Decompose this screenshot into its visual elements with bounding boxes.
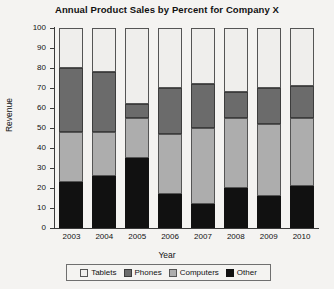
chart-title: Annual Product Sales by Percent for Comp…	[0, 4, 334, 15]
y-axis-tick-label: 60	[20, 103, 46, 112]
bar-2006[interactable]	[158, 28, 182, 228]
y-axis-tick-label: 30	[20, 163, 46, 172]
x-axis-tick-label: 2009	[253, 232, 285, 241]
bar-segment-tablets[interactable]	[59, 28, 83, 68]
bar-segment-tablets[interactable]	[92, 28, 116, 72]
bar-segment-other[interactable]	[158, 194, 182, 228]
bar-segment-other[interactable]	[224, 188, 248, 228]
chart-container: Annual Product Sales by Percent for Comp…	[0, 0, 334, 289]
bar-segment-tablets[interactable]	[125, 28, 149, 104]
y-axis-tick-label: 50	[20, 123, 46, 132]
legend-swatch-other-icon	[226, 269, 234, 277]
legend-swatch-tablets-icon	[80, 269, 88, 277]
bar-segment-phones[interactable]	[92, 72, 116, 132]
bar-2009[interactable]	[257, 28, 281, 228]
bar-segment-phones[interactable]	[257, 88, 281, 124]
bar-segment-computers[interactable]	[257, 124, 281, 196]
y-axis-tick-label: 10	[20, 203, 46, 212]
y-axis-tick-label: 0	[20, 223, 46, 232]
bar-segment-computers[interactable]	[158, 134, 182, 194]
legend-item-tablets[interactable]: Tablets	[80, 268, 116, 277]
bar-2005[interactable]	[125, 28, 149, 228]
x-axis-tick-label: 2006	[154, 232, 186, 241]
legend-item-other[interactable]: Other	[226, 268, 257, 277]
legend-item-computers[interactable]: Computers	[169, 268, 219, 277]
bar-segment-tablets[interactable]	[290, 28, 314, 86]
legend-swatch-computers-icon	[169, 269, 177, 277]
bar-segment-computers[interactable]	[191, 128, 215, 204]
bar-segment-other[interactable]	[59, 182, 83, 228]
legend-label: Phones	[135, 268, 162, 277]
y-axis-tick-label: 20	[20, 183, 46, 192]
bar-2008[interactable]	[224, 28, 248, 228]
y-axis-title: Revenue	[4, 80, 14, 150]
legend-swatch-phones-icon	[124, 269, 132, 277]
bar-segment-tablets[interactable]	[224, 28, 248, 92]
bar-segment-computers[interactable]	[59, 132, 83, 182]
bar-segment-computers[interactable]	[92, 132, 116, 176]
bar-segment-computers[interactable]	[290, 118, 314, 186]
legend-label: Other	[237, 268, 257, 277]
bar-segment-phones[interactable]	[191, 84, 215, 128]
plot-area	[55, 28, 318, 228]
x-axis-title: Year	[0, 250, 334, 260]
x-axis-line	[54, 228, 319, 229]
bar-segment-other[interactable]	[125, 158, 149, 228]
bar-segment-phones[interactable]	[125, 104, 149, 118]
bar-segment-phones[interactable]	[224, 92, 248, 118]
x-axis-tick-label: 2003	[55, 232, 87, 241]
x-axis-tick-label: 2005	[121, 232, 153, 241]
x-axis-tick-label: 2010	[286, 232, 318, 241]
bar-segment-tablets[interactable]	[158, 28, 182, 88]
bar-segment-computers[interactable]	[224, 118, 248, 188]
legend-item-phones[interactable]: Phones	[124, 268, 162, 277]
y-axis-tick-label: 90	[20, 43, 46, 52]
bar-segment-phones[interactable]	[290, 86, 314, 118]
y-axis-tick-label: 40	[20, 143, 46, 152]
bar-2007[interactable]	[191, 28, 215, 228]
bar-segment-computers[interactable]	[125, 118, 149, 158]
bar-segment-phones[interactable]	[158, 88, 182, 134]
bar-segment-other[interactable]	[191, 204, 215, 228]
legend-label: Computers	[180, 268, 219, 277]
x-axis-tick-label: 2004	[88, 232, 120, 241]
bar-segment-tablets[interactable]	[191, 28, 215, 84]
bar-segment-other[interactable]	[257, 196, 281, 228]
legend-label: Tablets	[91, 268, 116, 277]
y-axis-tick-label: 80	[20, 63, 46, 72]
x-axis-tick-label: 2007	[187, 232, 219, 241]
bar-segment-phones[interactable]	[59, 68, 83, 132]
bar-segment-tablets[interactable]	[257, 28, 281, 88]
y-axis-tick	[50, 228, 55, 229]
bar-segment-other[interactable]	[290, 186, 314, 228]
chart-legend: TabletsPhonesComputersOther	[66, 264, 271, 281]
x-axis-tick-label: 2008	[220, 232, 252, 241]
bar-2003[interactable]	[59, 28, 83, 228]
bar-2004[interactable]	[92, 28, 116, 228]
y-axis-tick-label: 70	[20, 83, 46, 92]
bar-segment-other[interactable]	[92, 176, 116, 228]
bar-2010[interactable]	[290, 28, 314, 228]
y-axis-tick-label: 100	[20, 23, 46, 32]
